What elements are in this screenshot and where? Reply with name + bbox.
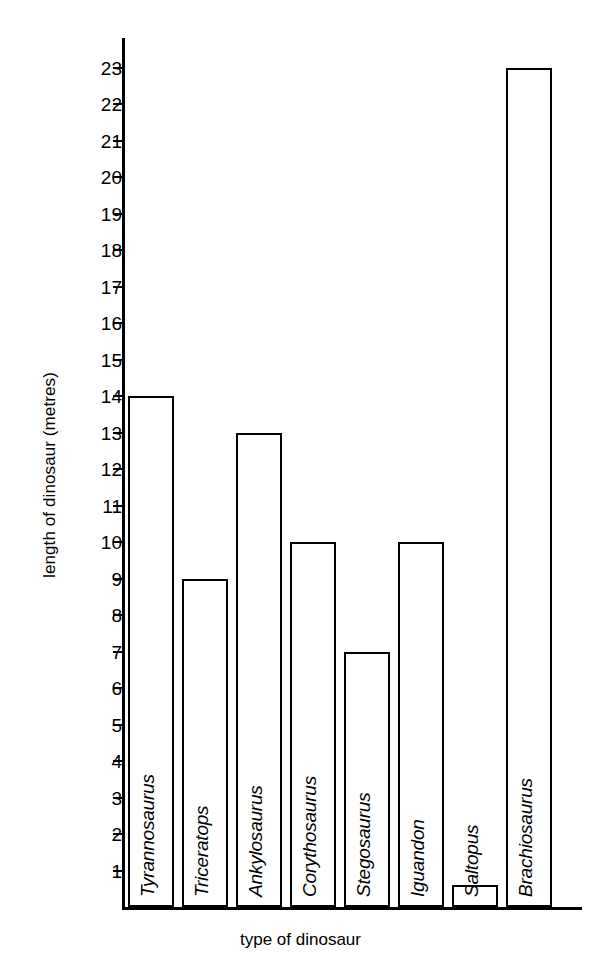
y-tick-label: 20 xyxy=(101,168,122,187)
y-axis-title: length of dinosaur (metres) xyxy=(40,265,60,685)
y-tick-label: 10 xyxy=(101,533,122,552)
y-tick-label: 7 xyxy=(111,642,122,661)
plot-area: 1234567891011121314151617181920212223 Ty… xyxy=(122,30,582,910)
x-axis-title: type of dinosaur xyxy=(0,930,601,950)
y-tick-label: 9 xyxy=(111,569,122,588)
y-tick-label: 14 xyxy=(101,387,122,406)
bar-label: Saltopus xyxy=(461,825,483,897)
y-tick-label: 5 xyxy=(111,715,122,734)
y-tick-label: 11 xyxy=(102,496,122,515)
y-tick-label: 16 xyxy=(101,314,122,333)
scan-artifact-text xyxy=(200,0,540,10)
y-tick-label: 2 xyxy=(111,825,122,844)
y-tick-label: 4 xyxy=(111,752,122,771)
y-tick-label: 18 xyxy=(101,241,122,260)
bar-label: Ankylosaurus xyxy=(245,785,267,897)
bar-label: Brachiosaurus xyxy=(515,778,537,897)
bar-label: Stegosaurus xyxy=(353,793,375,897)
bar-label: Triceratops xyxy=(191,806,213,897)
y-tick-label: 21 xyxy=(101,131,122,150)
bar-label: Tyrannosaurus xyxy=(137,774,159,897)
x-axis-line xyxy=(122,907,582,910)
y-tick-label: 3 xyxy=(111,788,122,807)
y-tick-label: 23 xyxy=(101,58,122,77)
y-tick-label: 12 xyxy=(101,460,122,479)
bar-label: Corythosaurus xyxy=(299,776,321,897)
y-tick-label: 19 xyxy=(101,204,122,223)
y-tick-label: 17 xyxy=(101,277,122,296)
y-tick-label: 6 xyxy=(111,679,122,698)
bar-chart: length of dinosaur (metres) 123456789101… xyxy=(0,0,601,971)
y-axis-line xyxy=(122,38,125,910)
y-tick-label: 13 xyxy=(101,423,122,442)
y-tick-label: 1 xyxy=(111,861,122,880)
bar-label: Iguandon xyxy=(407,819,429,897)
y-tick-label: 22 xyxy=(101,95,122,114)
y-tick-label: 8 xyxy=(111,606,122,625)
y-tick-label: 15 xyxy=(101,350,122,369)
